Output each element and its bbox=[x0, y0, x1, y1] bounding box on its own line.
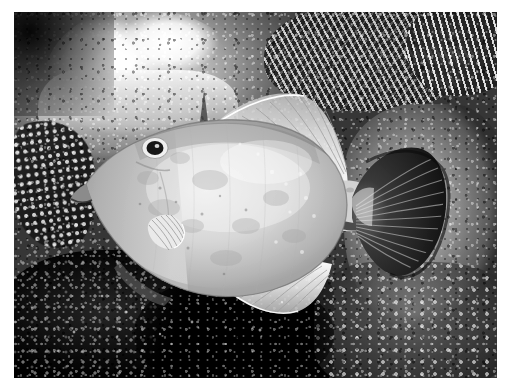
caudal-fin bbox=[352, 147, 449, 277]
dorsal-spine bbox=[200, 90, 208, 122]
page bbox=[0, 0, 511, 392]
photograph bbox=[14, 12, 497, 378]
fish bbox=[14, 12, 497, 378]
eye bbox=[142, 138, 168, 159]
